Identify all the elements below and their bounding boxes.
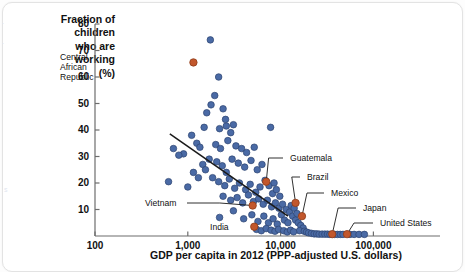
data-point — [290, 228, 297, 235]
highlighted-point-mexico — [298, 212, 305, 219]
data-point — [231, 185, 238, 192]
highlighted-point-india — [251, 223, 258, 230]
data-point — [225, 137, 232, 144]
data-point — [220, 106, 227, 113]
data-point — [195, 174, 202, 181]
highlighted-point-central-african-republic — [190, 59, 197, 66]
data-point — [217, 145, 224, 152]
data-point — [190, 169, 197, 176]
data-point — [229, 156, 236, 163]
data-point — [227, 129, 234, 136]
leader-line — [332, 208, 356, 234]
data-point — [240, 215, 247, 222]
data-point — [221, 182, 228, 189]
axes-layer — [95, 24, 440, 236]
data-point — [176, 152, 183, 159]
figure-page: · · s Fraction of children who are worki… — [0, 0, 465, 272]
data-point — [216, 125, 223, 132]
data-point — [211, 92, 218, 99]
data-point — [285, 219, 292, 226]
data-point — [254, 166, 261, 173]
data-point — [165, 178, 172, 185]
data-point — [208, 102, 215, 109]
data-point — [201, 124, 208, 131]
data-point — [230, 208, 237, 215]
data-point — [257, 184, 264, 191]
leader-line — [302, 193, 324, 216]
data-point — [251, 144, 258, 151]
data-point — [361, 231, 368, 238]
data-point — [267, 124, 274, 131]
data-point — [215, 178, 222, 185]
data-point — [261, 213, 268, 220]
highlighted-point-guatemala — [263, 178, 270, 185]
data-point — [203, 109, 210, 116]
data-point — [249, 212, 256, 219]
data-point — [185, 184, 192, 191]
data-point — [248, 157, 255, 164]
leader-line — [266, 158, 283, 182]
data-point — [170, 145, 177, 152]
data-point — [276, 193, 283, 200]
scatter-plot-canvas — [0, 0, 465, 272]
data-point — [241, 164, 248, 171]
data-point — [215, 74, 222, 81]
data-point — [223, 123, 230, 130]
data-point — [209, 174, 216, 181]
highlighted-points-layer — [190, 59, 351, 238]
data-points-layer — [165, 37, 367, 238]
data-point — [222, 116, 229, 123]
data-point — [235, 160, 242, 167]
data-point — [202, 166, 209, 173]
data-point — [273, 186, 280, 193]
data-point — [271, 180, 278, 187]
data-point — [227, 197, 234, 204]
highlighted-point-japan — [329, 230, 336, 237]
data-point — [220, 193, 227, 200]
data-point — [259, 161, 266, 168]
data-point — [197, 144, 204, 151]
highlighted-point-brazil — [292, 199, 299, 206]
highlighted-point-vietnam — [249, 202, 256, 209]
data-point — [216, 214, 223, 221]
data-point — [188, 132, 195, 139]
data-point — [230, 121, 237, 128]
data-point — [247, 181, 254, 188]
data-point — [245, 192, 252, 199]
highlighted-point-united-states — [343, 230, 350, 237]
data-point — [243, 149, 250, 156]
data-point — [234, 194, 241, 201]
data-point — [207, 37, 214, 44]
